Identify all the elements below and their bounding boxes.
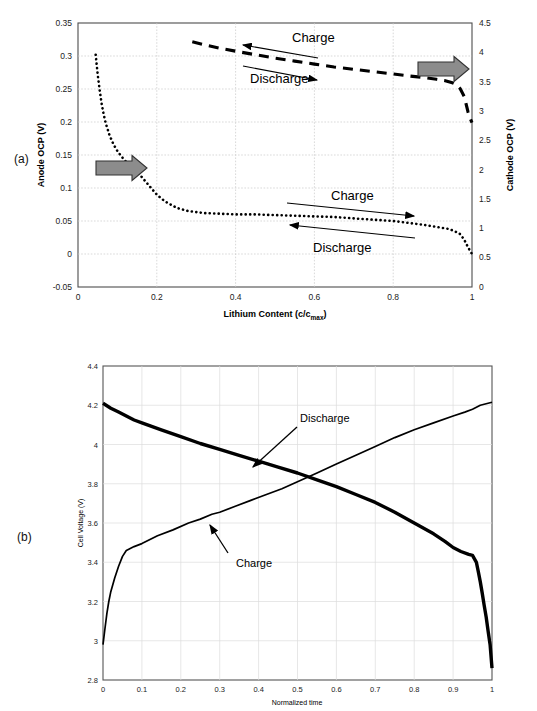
y-left-tick: 0.2 <box>60 117 72 127</box>
y-right-tick: 4.5 <box>479 18 491 28</box>
y-tick: 3.4 <box>88 558 98 567</box>
panel-a-label: (a) <box>14 152 29 166</box>
y-right-tick: 4 <box>479 47 484 57</box>
y-right-tick: 1.5 <box>479 194 491 204</box>
y-tick: 3.6 <box>88 519 98 528</box>
x-tick: 0.1 <box>137 685 147 694</box>
annotation-label: Discharge <box>250 71 309 86</box>
y-right-tick: 0 <box>479 282 484 292</box>
y-left-tick: 0.1 <box>60 183 72 193</box>
y-left-tick: 0.15 <box>55 150 72 160</box>
panel-a-plot: 0.35 0.3 0.25 0.2 0.15 0.1 0.05 0 -0.05 … <box>0 0 537 350</box>
x-tick: 0.5 <box>292 685 302 694</box>
annotation-label: Charge <box>331 188 374 203</box>
figure-container: (a) <box>0 0 537 711</box>
x-tick: 0.7 <box>370 685 380 694</box>
panel-a: (a) <box>0 0 537 350</box>
x-tick: 0 <box>101 685 105 694</box>
panel-b-label: (b) <box>17 530 32 544</box>
y-right-tick: 2 <box>479 165 484 175</box>
x-tick: 0.4 <box>253 685 263 694</box>
y-tick: 3.2 <box>88 598 98 607</box>
x-tick: 0.6 <box>331 685 341 694</box>
panel-b-y-axis: 4.4 4.2 4 3.8 3.6 3.4 3.2 3 2.8 <box>88 362 98 685</box>
panel-a-x-axis: 0 0.2 0.4 0.6 0.8 1 <box>76 292 475 302</box>
y-right-tick: 1 <box>479 223 484 233</box>
y-tick: 2.8 <box>88 676 98 685</box>
y-left-tick: 0.25 <box>55 84 72 94</box>
y-right-tick: 2.5 <box>479 135 491 145</box>
panel-b-x-axis: 0 0.1 0.2 0.3 0.4 0.5 0.6 0.7 0.8 0.9 1 <box>101 685 494 694</box>
annotation-label: Charge <box>292 30 335 45</box>
panel-b: (b) <box>0 355 537 711</box>
y-left-tick: 0 <box>67 249 72 259</box>
x-tick: 0.2 <box>151 292 163 302</box>
x-tick: 0 <box>76 292 81 302</box>
x-tick: 0.8 <box>387 292 399 302</box>
y-left-tick: 0.05 <box>55 216 72 226</box>
x-tick: 1 <box>490 685 494 694</box>
annotation-label: Discharge <box>300 412 350 424</box>
y-right-tick: 3.5 <box>479 77 491 87</box>
y-right-tick: 3 <box>479 106 484 116</box>
y-tick: 3.8 <box>88 480 98 489</box>
y-left-tick: -0.05 <box>53 282 73 292</box>
panel-b-y-axis-title: Cell Voltage (V) <box>77 499 85 548</box>
y-left-tick: 0.3 <box>60 51 72 61</box>
y-tick: 4 <box>94 441 98 450</box>
x-tick: 0.2 <box>176 685 186 694</box>
annotation-label: Discharge <box>313 240 372 255</box>
x-tick: 0.3 <box>214 685 224 694</box>
x-tick: 0.4 <box>230 292 242 302</box>
x-tick: 0.6 <box>308 292 320 302</box>
x-tick: 0.9 <box>448 685 458 694</box>
y-right-tick: 0.5 <box>479 252 491 262</box>
x-tick: 0.8 <box>409 685 419 694</box>
y-left-tick: 0.35 <box>55 18 72 28</box>
y-tick: 3 <box>94 637 98 646</box>
panel-a-x-axis-title: Lithium Content (c/cmax) <box>223 309 326 321</box>
x-tick: 1 <box>470 292 475 302</box>
panel-a-y-right-axis: 4.5 4 3.5 3 2.5 2 1.5 1 0.5 0 <box>479 18 491 292</box>
y-tick: 4.4 <box>88 362 98 371</box>
y-tick: 4.2 <box>88 401 98 410</box>
panel-a-y-left-axis: 0.35 0.3 0.25 0.2 0.15 0.1 0.05 0 -0.05 <box>53 18 73 292</box>
panel-b-plot: 4.4 4.2 4 3.8 3.6 3.4 3.2 3 2.8 0 0.1 0.… <box>0 355 537 711</box>
panel-a-y-right-axis-title: Cathode OCP (V) <box>505 119 515 191</box>
annotation-label: Charge <box>236 557 272 569</box>
panel-b-x-axis-title: Normalized time <box>272 699 323 706</box>
panel-a-y-left-axis-title: Anode OCP (V) <box>36 123 46 187</box>
